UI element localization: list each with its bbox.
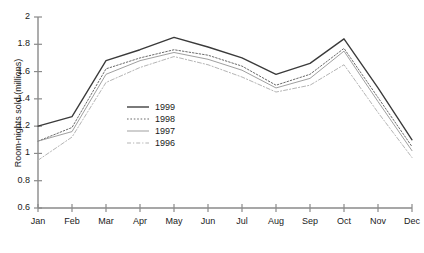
series-line-1996 <box>38 57 412 161</box>
line-chart: 0.60.811.21.41.61.82 JanFebMarAprMayJunJ… <box>0 0 424 253</box>
legend-label: 1997 <box>155 125 175 137</box>
legend-swatch-icon <box>127 138 149 148</box>
legend-item-1999[interactable]: 1999 <box>127 101 175 113</box>
legend-swatch-icon <box>127 114 149 124</box>
x-tick-label: Dec <box>392 216 424 226</box>
legend-label: 1998 <box>155 113 175 125</box>
legend-swatch-icon <box>127 102 149 112</box>
legend-item-1996[interactable]: 1996 <box>127 137 175 149</box>
legend-swatch-icon <box>127 126 149 136</box>
legend-item-1998[interactable]: 1998 <box>127 113 175 125</box>
y-axis-title: Room-nights sold (millions) <box>13 43 23 183</box>
legend-label: 1999 <box>155 101 175 113</box>
series-line-1998 <box>38 48 412 146</box>
y-tick-label: 2 <box>0 11 30 21</box>
y-tick-label: 0.6 <box>0 202 30 212</box>
chart-legend: 1999199819971996 <box>127 101 175 149</box>
legend-label: 1996 <box>155 137 175 149</box>
series-lines <box>38 37 412 160</box>
legend-item-1997[interactable]: 1997 <box>127 125 175 137</box>
